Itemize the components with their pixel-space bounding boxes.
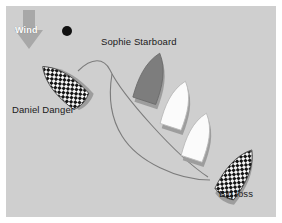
- boat-sophie-starboard[interactable]: [131, 49, 174, 109]
- label-sophie-starboard: Sophie Starboard: [101, 36, 177, 47]
- racing-mark-icon: [62, 26, 72, 36]
- wind-label: Wind: [15, 25, 38, 35]
- label-daniel-danger: Daniel Danger: [12, 104, 74, 115]
- diagram-root: Wind Sophie Starboard Daniel Danger Big …: [0, 0, 282, 223]
- label-big-loss: Big loss: [219, 188, 253, 199]
